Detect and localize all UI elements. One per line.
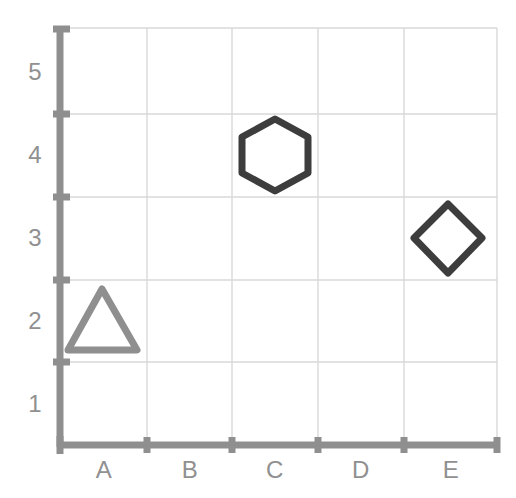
x-axis-label-c: C bbox=[255, 458, 295, 482]
y-axis-label-1: 1 bbox=[12, 392, 42, 416]
y-axis-label-3: 3 bbox=[12, 226, 42, 250]
diamond-marker[interactable] bbox=[414, 204, 482, 273]
chart-canvas: 5 4 3 2 1 A B C D E bbox=[0, 0, 516, 498]
plot-graphics bbox=[0, 0, 516, 498]
x-axis-label-d: D bbox=[341, 458, 381, 482]
hexagon-marker[interactable] bbox=[242, 119, 308, 191]
y-axis-label-4: 4 bbox=[12, 143, 42, 167]
y-axis-label-2: 2 bbox=[12, 309, 42, 333]
x-axis-label-b: B bbox=[170, 458, 210, 482]
x-axis-label-e: E bbox=[431, 458, 471, 482]
triangle-marker[interactable] bbox=[68, 289, 137, 350]
axis-lines bbox=[57, 28, 500, 447]
grid-lines bbox=[60, 28, 497, 445]
x-axis-label-a: A bbox=[84, 458, 124, 482]
y-axis-label-5: 5 bbox=[12, 60, 42, 84]
